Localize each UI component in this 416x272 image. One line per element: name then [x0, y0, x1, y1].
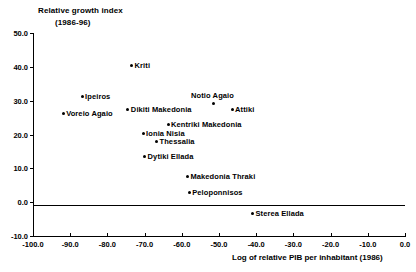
y-axis-tick	[30, 33, 34, 34]
x-axis-tick-label: -70.0	[125, 240, 165, 249]
x-axis-tick-label: -40.0	[236, 240, 276, 249]
y-axis-tick-label: 20.0	[0, 131, 28, 140]
x-axis-tick	[256, 233, 257, 237]
x-axis-tick-label: -100.0	[13, 240, 53, 249]
x-axis-tick	[293, 233, 294, 237]
y-axis-tick	[30, 202, 34, 203]
x-axis-tick	[405, 233, 406, 237]
zero-reference-line	[33, 205, 405, 206]
data-point-marker	[130, 64, 133, 67]
data-point-label: Kriti	[135, 61, 151, 70]
data-point-label: Voreio Agaio	[66, 109, 113, 118]
data-point-label: Ipeiros	[85, 92, 110, 101]
y-axis-tick-label: 10.0	[0, 164, 28, 173]
x-axis-tick	[107, 233, 108, 237]
y-axis-tick	[30, 168, 34, 169]
data-point-marker	[126, 108, 129, 111]
x-axis-tick	[368, 233, 369, 237]
x-axis-tick-label: -20.0	[311, 240, 351, 249]
data-point-marker	[231, 108, 234, 111]
data-point-label: Thessalia	[160, 137, 195, 146]
data-point-label: Peloponnisos	[192, 188, 242, 197]
data-point-marker	[143, 155, 146, 158]
x-axis-tick-label: -90.0	[50, 240, 90, 249]
data-point-marker	[251, 212, 254, 215]
data-point-label: Attiki	[235, 105, 254, 114]
x-axis-tick	[331, 233, 332, 237]
scatter-chart: Relative growth index (1986-96) 50.040.0…	[0, 0, 416, 272]
y-axis-tick-label: 30.0	[0, 97, 28, 106]
y-axis-tick	[30, 135, 34, 136]
x-axis-tick	[70, 233, 71, 237]
x-axis-tick-label: -10.0	[348, 240, 388, 249]
x-axis-tick-label: 0.0	[385, 240, 416, 249]
data-point-marker	[167, 123, 170, 126]
x-axis-tick-label: -80.0	[87, 240, 127, 249]
data-point-marker	[142, 132, 145, 135]
data-point-label: Notio Agaio	[191, 91, 234, 100]
data-point-marker	[188, 191, 191, 194]
x-axis-title: Log of relative PIB per inhabitant (1986…	[232, 253, 383, 262]
data-point-label: Makedonia Thraki	[190, 172, 255, 181]
y-axis-tick-label: 0.0	[0, 198, 28, 207]
y-axis-tick	[30, 101, 34, 102]
x-axis-tick-label: -30.0	[273, 240, 313, 249]
x-axis-tick	[182, 233, 183, 237]
data-point-marker	[186, 175, 189, 178]
y-axis-tick-label: 40.0	[0, 63, 28, 72]
data-point-label: Dytiki Ellada	[148, 152, 194, 161]
y-axis-tick-label: 50.0	[0, 29, 28, 38]
chart-title: Relative growth index	[38, 6, 123, 15]
data-point-label: Kentriki Makedonia	[171, 120, 242, 129]
data-point-marker	[155, 140, 158, 143]
data-point-marker	[62, 112, 65, 115]
data-point-marker	[212, 102, 215, 105]
chart-subtitle: (1986-96)	[55, 18, 91, 27]
x-axis-tick-label: -60.0	[162, 240, 202, 249]
data-point-label: Dikiti Makedonia	[131, 105, 192, 114]
x-axis-tick-label: -50.0	[199, 240, 239, 249]
x-axis-tick	[219, 233, 220, 237]
x-axis-tick	[33, 233, 34, 237]
data-point-label: Sterea Ellada	[255, 209, 303, 218]
x-axis-tick	[145, 233, 146, 237]
data-point-marker	[81, 95, 84, 98]
y-axis-tick	[30, 67, 34, 68]
